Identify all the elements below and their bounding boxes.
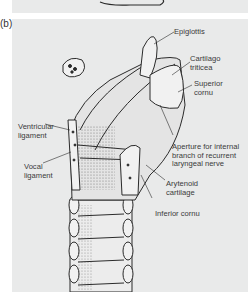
label-ventricular-ligament: Ventricular ligament [18, 123, 54, 140]
label-epiglottis: Epiglottis [174, 28, 205, 37]
previous-cartilage-outline [100, 0, 164, 5]
label-cartilago-triticea: Cartilago triticea [190, 55, 220, 72]
larynx [63, 36, 185, 200]
label-arytenoid-cartilage: Arytenoid cartilage [166, 180, 198, 197]
label-vocal-ligament: Vocal ligament [24, 163, 53, 180]
label-inferior-cornu: Inferior cornu [155, 210, 200, 219]
label-superior-cornu: Superior cornu [194, 80, 223, 97]
label-aperture: Aperture for internal branch of recurren… [172, 143, 239, 169]
trachea [69, 196, 133, 292]
